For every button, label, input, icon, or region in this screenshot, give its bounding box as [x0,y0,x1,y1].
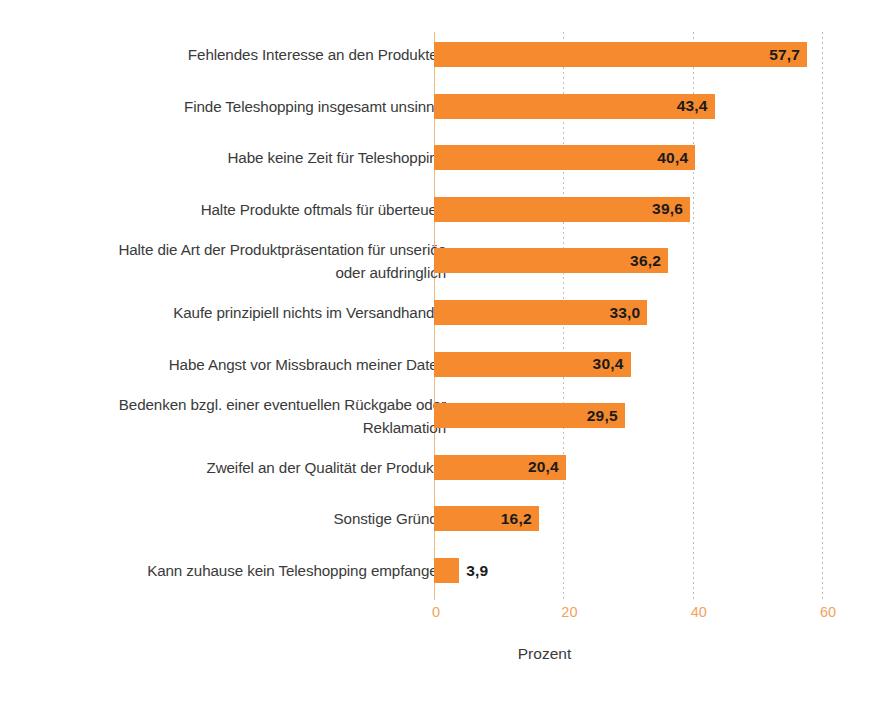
bar-value-label: 16,2 [501,510,539,528]
category-label: Bedenken bzgl. einer eventuellen Rückgab… [26,393,446,439]
bar[interactable]: 3,9 [434,558,459,583]
bar[interactable]: 39,6 [434,197,690,222]
bar[interactable]: 36,2 [434,248,668,273]
bar-row: Habe Angst vor Missbrauch meiner Daten30… [434,352,889,377]
category-label-line: Kaufe prinzipiell nichts im Versandhande… [26,301,446,324]
bar[interactable]: 29,5 [434,403,625,428]
category-label: Halte die Art der Produktpräsentation fü… [26,238,446,284]
category-label: Fehlendes Interesse an den Produkten [26,43,446,66]
category-label: Habe Angst vor Missbrauch meiner Daten [26,353,446,376]
x-tick-label-0: 0 [432,604,440,620]
bar-value-label: 57,7 [769,46,807,64]
category-label-line: Sonstige Gründe [26,507,446,530]
bar-value-label: 3,9 [459,562,488,580]
bar-rows: Fehlendes Interesse an den Produkten57,7… [434,32,889,600]
bar-wrapper: 30,4 [434,352,631,377]
bar-row: Zweifel an der Qualität der Produkte20,4 [434,455,889,480]
x-tick-label-40: 40 [691,604,707,620]
category-label-line: Habe Angst vor Missbrauch meiner Daten [26,353,446,376]
bar-wrapper: 3,9 [434,558,459,583]
bar-row: Habe keine Zeit für Teleshopping40,4 [434,145,889,170]
bar[interactable]: 20,4 [434,455,566,480]
category-label: Kann zuhause kein Teleshopping empfangen [26,559,446,582]
category-label: Habe keine Zeit für Teleshopping [26,146,446,169]
bar-wrapper: 36,2 [434,248,668,273]
category-label-line: Fehlendes Interesse an den Produkten [26,43,446,66]
bar-row: Kaufe prinzipiell nichts im Versandhande… [434,300,889,325]
bar-row: Sonstige Gründe16,2 [434,506,889,531]
bar[interactable]: 43,4 [434,94,715,119]
category-label-line: Reklamation [26,416,446,439]
category-label: Finde Teleshopping insgesamt unsinnig [26,95,446,118]
category-label-line: Halte Produkte oftmals für überteuert [26,198,446,221]
x-tick-label-60: 60 [820,604,836,620]
x-axis-title: Prozent [0,645,889,663]
category-label: Kaufe prinzipiell nichts im Versandhande… [26,301,446,324]
bar-row: Kann zuhause kein Teleshopping empfangen… [434,558,889,583]
category-label-line: Zweifel an der Qualität der Produkte [26,456,446,479]
bar-wrapper: 20,4 [434,455,566,480]
category-label-line: Habe keine Zeit für Teleshopping [26,146,446,169]
category-label-line: Finde Teleshopping insgesamt unsinnig [26,95,446,118]
bar-row: Bedenken bzgl. einer eventuellen Rückgab… [434,403,889,428]
category-label: Sonstige Gründe [26,507,446,530]
bar-value-label: 29,5 [587,407,625,425]
bar-value-label: 43,4 [677,97,715,115]
bar-wrapper: 29,5 [434,403,625,428]
bar-chart: Fehlendes Interesse an den Produkten57,7… [0,0,889,701]
bar-wrapper: 43,4 [434,94,715,119]
bar-value-label: 20,4 [528,458,566,476]
bar-wrapper: 33,0 [434,300,647,325]
bar[interactable]: 57,7 [434,42,807,67]
bar-row: Finde Teleshopping insgesamt unsinnig43,… [434,94,889,119]
bar-value-label: 36,2 [630,252,668,270]
bar-row: Fehlendes Interesse an den Produkten57,7 [434,42,889,67]
bar-row: Halte die Art der Produktpräsentation fü… [434,248,889,273]
category-label-line: oder aufdringlich [26,261,446,284]
bar-wrapper: 57,7 [434,42,807,67]
bar-wrapper: 39,6 [434,197,690,222]
bar-row: Halte Produkte oftmals für überteuert39,… [434,197,889,222]
plot-area: Fehlendes Interesse an den Produkten57,7… [434,32,889,600]
category-label-line: Bedenken bzgl. einer eventuellen Rückgab… [26,393,446,416]
bar[interactable]: 40,4 [434,145,695,170]
category-label: Zweifel an der Qualität der Produkte [26,456,446,479]
category-label: Halte Produkte oftmals für überteuert [26,198,446,221]
x-axis-title-label: Prozent [518,645,571,663]
category-label-line: Halte die Art der Produktpräsentation fü… [26,238,446,261]
bar[interactable]: 30,4 [434,352,631,377]
bar-value-label: 33,0 [609,304,647,322]
bar[interactable]: 33,0 [434,300,647,325]
bar-wrapper: 16,2 [434,506,539,531]
category-label-line: Kann zuhause kein Teleshopping empfangen [26,559,446,582]
x-axis-tick-labels: 0204060 [434,600,889,630]
bar-value-label: 30,4 [593,355,631,373]
bar-value-label: 39,6 [652,200,690,218]
bar-value-label: 40,4 [657,149,695,167]
x-tick-label-20: 20 [561,604,577,620]
bar-wrapper: 40,4 [434,145,695,170]
bar[interactable]: 16,2 [434,506,539,531]
